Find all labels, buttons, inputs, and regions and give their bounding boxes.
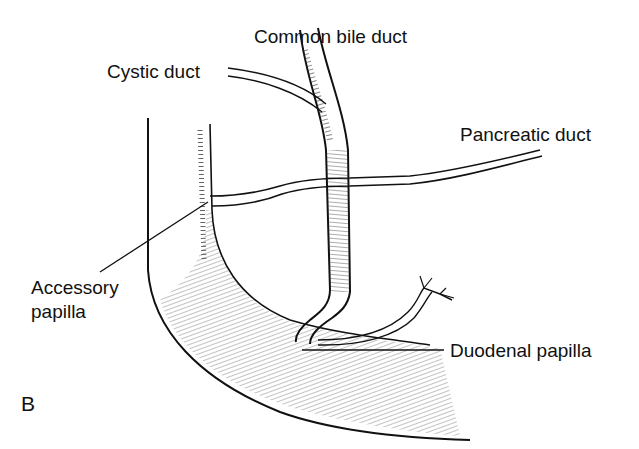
duodenum	[148, 118, 470, 440]
pancreatic-duct	[210, 150, 542, 206]
accessory-papilla-leader	[100, 202, 208, 272]
label-accessory-papilla-line1: Accessory	[31, 277, 119, 299]
panel-letter: B	[21, 392, 35, 416]
label-duodenal-papilla: Duodenal papilla	[450, 340, 592, 362]
label-cystic-duct: Cystic duct	[107, 61, 200, 83]
label-pancreatic-duct: Pancreatic duct	[460, 124, 591, 146]
cystic-duct	[228, 68, 326, 112]
duct-anatomy-drawing	[0, 0, 639, 449]
label-accessory-papilla-line2: papilla	[31, 301, 86, 323]
label-common-bile-duct: Common bile duct	[254, 26, 407, 48]
